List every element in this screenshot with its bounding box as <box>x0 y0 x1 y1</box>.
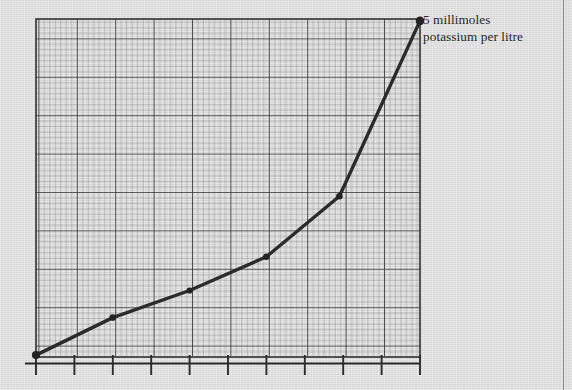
graph-paper-plot <box>0 0 572 390</box>
curve-endpoint-annotation: 5 millimoles potassium per litre <box>423 12 569 45</box>
data-point-marker <box>263 253 270 260</box>
data-point-marker <box>110 314 117 321</box>
data-point-marker <box>187 287 193 293</box>
data-point-marker <box>336 193 343 200</box>
grid-area <box>36 19 420 357</box>
x-axis-ticks <box>36 355 420 375</box>
data-point-marker <box>32 351 40 359</box>
page-edge-rule <box>563 0 564 390</box>
graph-figure: 5 millimoles potassium per litre <box>0 0 572 390</box>
